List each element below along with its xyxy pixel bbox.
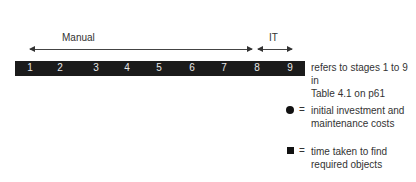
stage-3: 3	[93, 62, 99, 73]
phase-label-manual: Manual	[62, 32, 95, 43]
stage-4: 4	[124, 62, 130, 73]
circle-marker-icon	[286, 106, 294, 114]
stages-note: refers to stages 1 to 9 in Table 4.1 on …	[311, 61, 416, 100]
legend-equals: =	[299, 104, 305, 115]
stage-2: 2	[57, 62, 63, 73]
legend-equals: =	[299, 145, 305, 156]
arrow-right-icon	[287, 46, 293, 52]
stage-1: 1	[27, 62, 33, 73]
legend-item-time: time taken to find required objects	[311, 145, 387, 171]
arrow-left-icon	[29, 46, 35, 52]
arrow-right-icon	[247, 46, 253, 52]
legend-text-line-1: time taken to find	[311, 145, 387, 158]
it-range-arrow	[258, 49, 292, 50]
legend-text-line-1: initial investment and	[311, 104, 404, 117]
note-line-2: Table 4.1 on p61	[311, 87, 416, 100]
legend-text-line-2: maintenance costs	[311, 117, 404, 130]
stage-5: 5	[156, 62, 162, 73]
legend-item-investment: initial investment and maintenance costs	[311, 104, 404, 130]
phase-label-it: IT	[269, 32, 278, 43]
stage-8: 8	[254, 62, 260, 73]
stage-7: 7	[221, 62, 227, 73]
manual-range-arrow	[30, 49, 252, 50]
stage-6: 6	[189, 62, 195, 73]
stages-bar: 1 2 3 4 5 6 7 8 9	[15, 61, 305, 76]
note-line-1: refers to stages 1 to 9 in	[311, 61, 416, 87]
stage-9: 9	[287, 62, 293, 73]
legend-text-line-2: required objects	[311, 158, 387, 171]
square-marker-icon	[287, 147, 294, 154]
arrow-left-icon	[257, 46, 263, 52]
